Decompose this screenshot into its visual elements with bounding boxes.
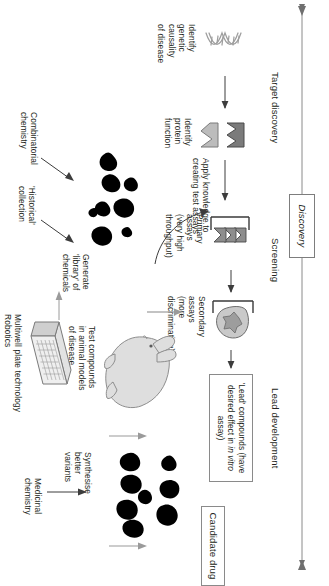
input-label-historical-collection: 'Historical' collection [17,186,37,266]
lead-compounds-line2: desired effect in in vitro assay) [215,379,236,477]
lead-compounds-box: 'Lead' compounds (have desired effect in… [209,374,253,482]
rabbit-animal-model-icon [101,330,179,416]
arrow-primary-to-secondary [225,270,237,300]
arrow-compounds-to-primary-assays [151,206,217,276]
lead-line2-post: assay) [216,416,226,441]
candidate-drug-box: Candidate drug [201,506,225,586]
candidate-drug-label: Candidate drug [207,512,219,579]
arrow-secondary-to-lead [225,350,237,376]
secondary-assay-cell-icon [211,300,255,348]
in-vitro-emphasis: in vitro [226,446,236,471]
input-label-multiwell-plate: Multiwell plate technology Robotics [3,314,23,474]
discovery-axis-label-box: Discovery [289,194,315,258]
protein-receptor-light-icon [199,122,219,148]
arrow-genetic-to-protein [219,76,231,116]
lead-line2-pre: desired effect in [226,385,236,446]
dna-helix-icon [203,28,243,62]
protein-receptor-dark-icon [225,122,245,148]
arrow-historical-to-library [39,216,79,250]
arrow-lead-to-animal [147,306,189,318]
synthesised-compounds-icon [99,448,185,540]
step-label-identify-protein: Identify protein function [162,118,193,188]
stage-label-screening: Screening [270,238,282,282]
chemical-library-icon [71,146,143,258]
multiwell-plate-icon [27,318,73,388]
arrow-combinatorial-to-library [39,154,79,188]
arrow-plate-to-assays [53,286,65,322]
arrow-protein-to-assays [219,160,231,208]
lead-compounds-line1: 'Lead' compounds (have [236,383,246,474]
stage-label-lead-development: Lead development [270,388,282,469]
arrow-medicinal-chemistry [47,486,93,498]
arrow-variants-to-candidate [109,540,153,552]
arrow-animal-to-variants [109,430,153,442]
stage-label-target-discovery: Target discovery [270,72,282,143]
discovery-label: Discovery [296,204,308,247]
step-label-identify-genetic: Identify genetic causality of disease [156,24,197,94]
input-label-medicinal-chemistry: Medicinal chemistry [23,478,43,558]
phase-axis [287,0,317,576]
